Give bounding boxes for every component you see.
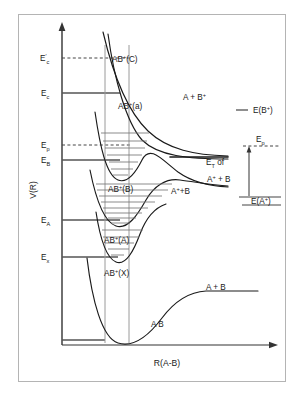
- label-EA: EA: [41, 216, 50, 227]
- label-Ep: Ep: [41, 141, 50, 152]
- label-Ep-right: Ep: [256, 135, 265, 146]
- label-state-C: AB+(C): [112, 54, 138, 64]
- label-A-plus-B: A + B: [206, 283, 226, 292]
- energy-level-lines: [62, 58, 131, 340]
- arrow-ET-head-up: [247, 146, 252, 153]
- diagram-canvas: V(R) R(A-B) E′c Ec Ep EB EA Ex: [0, 0, 304, 396]
- label-E-B-plus: E(B+): [253, 105, 273, 115]
- label-Ex: Ex: [41, 253, 49, 264]
- asymptote-labels: A + B+ A++B A + B: [171, 92, 226, 292]
- label-ET-line1: ET of: [206, 158, 225, 169]
- label-state-A: AB+(A): [104, 235, 129, 245]
- label-Ec: Ec: [41, 89, 49, 100]
- axes-group: [59, 22, 278, 348]
- potential-energy-diagram: V(R) R(A-B) E′c Ec Ep EB EA Ex: [0, 0, 304, 396]
- label-state-AB: A B: [151, 320, 164, 329]
- label-state-B: AB+(B): [108, 184, 133, 194]
- curve-state-C: [103, 32, 228, 156]
- label-ET-line2: A+ + B: [207, 174, 231, 184]
- curve-state-labels: AB+(C) AB+(a) AB+(B) AB+(A) AB+(X) A B: [104, 54, 164, 329]
- franck-condon-region: [105, 45, 129, 343]
- label-Ec-prime: E′c: [40, 53, 50, 64]
- label-state-X: AB+(X): [104, 268, 129, 278]
- label-Aplus-plus-B: A++B: [171, 186, 191, 196]
- right-panel-graphics: [236, 110, 281, 205]
- energy-level-labels: E′c Ec Ep EB EA Ex: [40, 53, 50, 263]
- y-axis-arrowhead: [59, 22, 66, 31]
- curve-state-a: [108, 34, 228, 159]
- label-state-a: AB+(a): [118, 101, 142, 111]
- label-A-plus-Bplus: A + B+: [183, 92, 206, 102]
- label-E-A-plus: E(A+): [251, 196, 271, 206]
- label-EB: EB: [41, 156, 50, 167]
- y-axis-label: V(R): [28, 181, 38, 199]
- x-axis-label: R(A-B): [154, 358, 180, 368]
- x-axis-arrowhead: [269, 342, 278, 348]
